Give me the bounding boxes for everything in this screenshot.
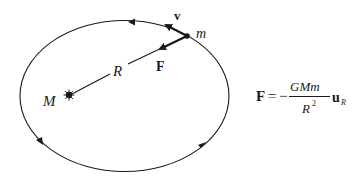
formula-unit-vector: u bbox=[332, 90, 340, 105]
formula-denominator-exp: 2 bbox=[312, 99, 316, 108]
orbit-direction-arrow-top bbox=[128, 19, 135, 26]
formula-numerator: GMm bbox=[290, 79, 320, 94]
orbiting-mass-dot bbox=[184, 33, 190, 39]
gravity-formula: F = − GMm R 2 u R bbox=[256, 79, 346, 116]
velocity-vector bbox=[166, 25, 187, 36]
central-mass-label: M bbox=[42, 93, 57, 109]
formula-denominator: R bbox=[301, 101, 310, 116]
formula-sign: − bbox=[279, 88, 287, 104]
force-vector bbox=[160, 36, 187, 49]
formula-lhs: F bbox=[256, 88, 265, 104]
orbit-diagram: M m R v F F = − GMm R 2 u R bbox=[0, 0, 363, 186]
force-label: F bbox=[156, 59, 165, 74]
orbit-direction-arrow-left bbox=[36, 137, 43, 145]
radius-label: R bbox=[112, 63, 122, 79]
formula-equals: = bbox=[268, 88, 276, 104]
formula-unit-vector-sub: R bbox=[340, 98, 346, 107]
radius-line-lower bbox=[70, 74, 110, 95]
orbiting-mass-label: m bbox=[196, 26, 206, 41]
sun-icon bbox=[64, 90, 75, 101]
velocity-label: v bbox=[174, 8, 181, 23]
